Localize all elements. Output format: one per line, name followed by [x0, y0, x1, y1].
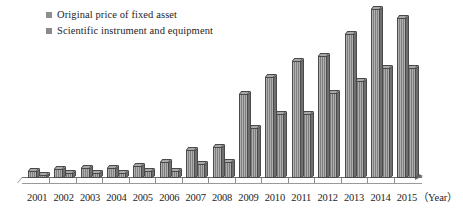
bar-face [133, 166, 142, 178]
x-axis-tick-label: 2015 [394, 190, 420, 206]
bar-side-face [205, 162, 208, 178]
bar-face [186, 150, 195, 178]
bar-face [265, 77, 274, 178]
bar-face [213, 147, 222, 178]
bar-group [262, 4, 288, 178]
bar-face [107, 168, 116, 178]
bar-group [130, 4, 156, 178]
bar-face [397, 18, 406, 178]
bar [345, 34, 354, 178]
bar-group [235, 4, 261, 178]
x-axis-ticks [24, 178, 420, 183]
bar-top-face [345, 31, 357, 34]
bar-face [28, 171, 37, 178]
bar [133, 166, 142, 178]
bar-groups [24, 4, 420, 178]
bar-group [314, 4, 340, 178]
x-axis-tick-label: 2013 [341, 190, 367, 206]
bar-side-face [390, 66, 393, 178]
bar-top-face [81, 165, 93, 168]
bar-side-face [337, 90, 340, 178]
bar-group [394, 4, 420, 178]
bar-top-face [107, 165, 119, 168]
bar-side-face [406, 15, 409, 178]
x-axis-tick-label: 2011 [288, 190, 314, 206]
x-axis-tick-label: 2014 [367, 190, 393, 206]
x-axis-tick [342, 178, 368, 183]
bar-side-face [195, 148, 198, 178]
x-axis-tick-label: 2010 [262, 190, 288, 206]
bar [397, 18, 406, 178]
x-axis-unit-label: （Year） [418, 190, 457, 206]
x-axis-tick-label: 2012 [314, 190, 340, 206]
bar-side-face [380, 7, 383, 178]
bar [54, 169, 63, 178]
bar-face [239, 94, 248, 178]
bar-face [345, 34, 354, 178]
plot-area [24, 4, 420, 178]
bar [81, 168, 90, 178]
x-axis-tick-label: 2009 [235, 190, 261, 206]
bar [186, 150, 195, 178]
x-axis-tick [50, 178, 76, 183]
bar-chart: Original price of fixed asset Scientific… [0, 0, 463, 211]
bar-face [318, 56, 327, 178]
bar-face [81, 168, 90, 178]
x-axis-tick [130, 178, 156, 183]
bar-side-face [258, 125, 261, 178]
bar [160, 162, 169, 178]
bar-group [367, 4, 393, 178]
bar-face [292, 61, 301, 178]
bar-top-face [213, 144, 225, 147]
x-axis-tick [183, 178, 209, 183]
bar-group [182, 4, 208, 178]
bar-group [156, 4, 182, 178]
x-axis-tick-label: 2006 [156, 190, 182, 206]
x-axis-tick [262, 178, 288, 183]
x-axis-tick-label: 2001 [24, 190, 50, 206]
bar-group [288, 4, 314, 178]
x-axis-tick [209, 178, 235, 183]
bar-side-face [364, 78, 367, 178]
bar-group [209, 4, 235, 178]
bar-side-face [248, 92, 251, 178]
bar-face [160, 162, 169, 178]
bar-side-face [232, 160, 235, 178]
x-axis-tick [315, 178, 341, 183]
bar-side-face [169, 160, 172, 178]
bar-side-face [301, 59, 304, 178]
x-axis-tick [77, 178, 103, 183]
bar [107, 168, 116, 178]
x-axis-tick [103, 178, 129, 183]
bar [371, 9, 380, 178]
bar-side-face [284, 111, 287, 178]
x-axis-tick-label: 2008 [209, 190, 235, 206]
bar-face [54, 169, 63, 178]
bar [292, 61, 301, 178]
bar [265, 77, 274, 178]
x-axis-tick [156, 178, 182, 183]
bar-side-face [327, 54, 330, 178]
x-axis-tick [368, 178, 394, 183]
x-axis-tick-label: 2002 [50, 190, 76, 206]
bar-side-face [222, 144, 225, 178]
x-axis-tick-label: 2003 [77, 190, 103, 206]
bar [318, 56, 327, 178]
x-axis-depth-line [22, 183, 422, 184]
bar-side-face [311, 111, 314, 178]
bar [28, 171, 37, 178]
bar-group [103, 4, 129, 178]
x-axis-tick-label: 2007 [182, 190, 208, 206]
bar-side-face [416, 66, 419, 178]
x-axis-tick [289, 178, 315, 183]
x-axis-tick [395, 178, 420, 183]
x-axis-labels: 2001200220032004200520062007200820092010… [24, 190, 420, 206]
bar [239, 94, 248, 178]
bar-side-face [354, 31, 357, 178]
bar-side-face [274, 75, 277, 178]
bar [213, 147, 222, 178]
bar-group [24, 4, 50, 178]
x-axis-tick-label: 2005 [130, 190, 156, 206]
x-axis-tick-label: 2004 [103, 190, 129, 206]
bar-group [50, 4, 76, 178]
